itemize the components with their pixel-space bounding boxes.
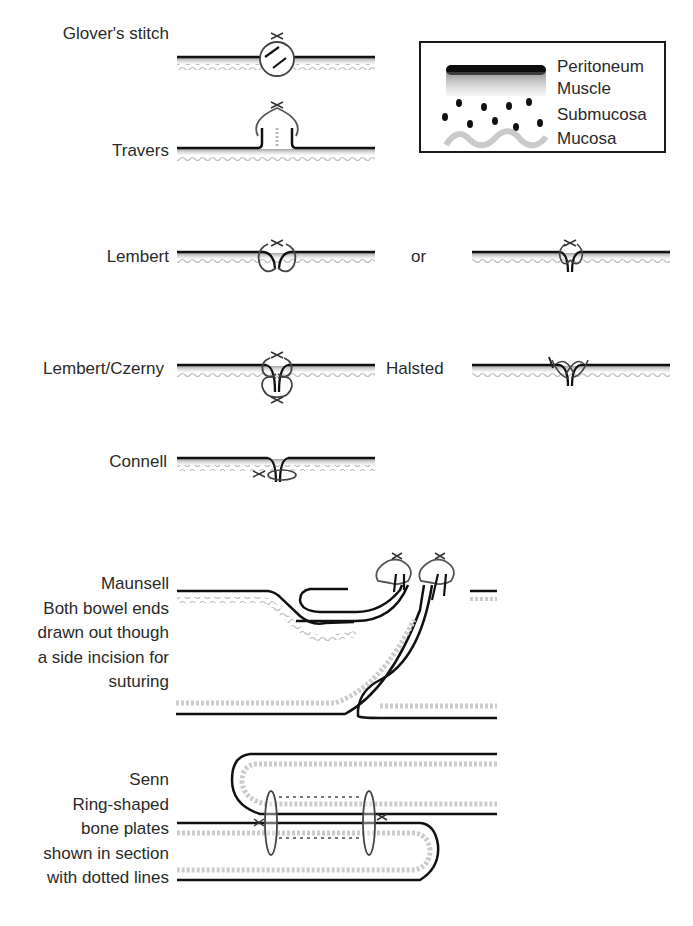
diagram-maunsell: [176, 553, 497, 718]
bone-plate-left: [265, 791, 277, 855]
diagram-halsted: [472, 357, 670, 386]
bone-plate-right: [363, 791, 375, 855]
submucosa-dots-symbol: [442, 98, 543, 131]
diagram-senn: [177, 754, 497, 880]
mucosa-wave-symbol: [446, 131, 546, 145]
diagram-lembert-alt: [472, 240, 670, 272]
diagram-lembert-czerny: [177, 352, 375, 403]
diagram-lembert: [177, 240, 375, 271]
diagram-glovers-stitch: [177, 33, 375, 76]
legend-symbols: [442, 65, 546, 145]
diagram-travers: [177, 102, 375, 161]
muscle-symbol: [446, 72, 546, 96]
diagram-connell: [177, 458, 375, 482]
